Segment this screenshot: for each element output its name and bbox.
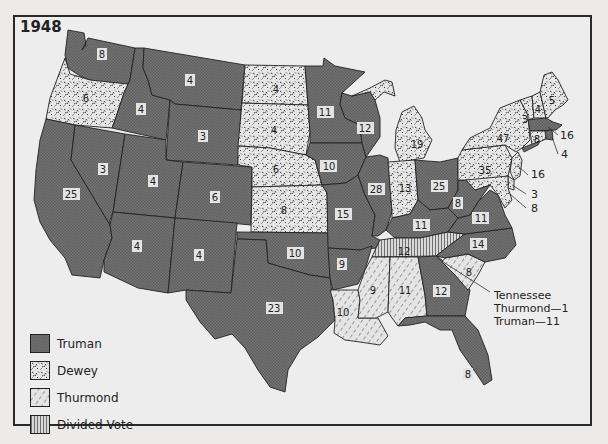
callout-de: 3 xyxy=(531,188,538,201)
svg-text:8: 8 xyxy=(99,49,105,60)
callout-ma: 16 xyxy=(560,129,574,142)
svg-text:14: 14 xyxy=(472,239,485,250)
thurmond-swatch-icon xyxy=(30,388,50,407)
callout-nj: 16 xyxy=(531,168,545,181)
svg-text:8: 8 xyxy=(455,198,461,209)
svg-text:8: 8 xyxy=(466,267,472,278)
svg-text:11: 11 xyxy=(475,213,488,224)
svg-text:4: 4 xyxy=(196,250,202,261)
svg-text:25: 25 xyxy=(65,189,78,200)
legend: Truman Dewey Thurmond Divided Vote xyxy=(30,330,133,438)
svg-text:35: 35 xyxy=(479,165,492,176)
svg-text:4: 4 xyxy=(535,104,541,115)
svg-text:6: 6 xyxy=(273,164,279,175)
svg-text:11: 11 xyxy=(399,285,412,296)
svg-text:9: 9 xyxy=(339,259,345,270)
legend-item-dewey: Dewey xyxy=(30,357,133,384)
svg-text:11: 11 xyxy=(319,107,332,118)
note-line-state: Tennessee xyxy=(494,289,568,302)
state-ma xyxy=(528,118,562,131)
callout-ri: 4 xyxy=(561,148,568,161)
svg-text:28: 28 xyxy=(370,184,383,195)
svg-text:19: 19 xyxy=(411,139,424,150)
svg-text:12: 12 xyxy=(359,123,372,134)
svg-text:5: 5 xyxy=(549,95,555,106)
svg-text:8: 8 xyxy=(281,205,287,216)
svg-text:10: 10 xyxy=(337,307,350,318)
svg-text:13: 13 xyxy=(399,183,412,194)
state-nj xyxy=(510,152,522,180)
state-fl xyxy=(398,316,492,385)
svg-text:4: 4 xyxy=(271,125,277,136)
svg-text:3: 3 xyxy=(522,114,528,125)
svg-text:4: 4 xyxy=(187,75,193,86)
svg-text:3: 3 xyxy=(100,164,106,175)
legend-item-divided: Divided Vote xyxy=(30,411,133,438)
state-ks xyxy=(251,185,328,233)
note-line-thurmond: Thurmond—1 xyxy=(494,302,568,315)
svg-text:10: 10 xyxy=(323,161,336,172)
state-ny xyxy=(462,100,530,152)
svg-text:10: 10 xyxy=(289,248,302,259)
svg-text:47: 47 xyxy=(497,133,510,144)
note-line-truman: Truman—11 xyxy=(494,315,568,328)
tennessee-note: Tennessee Thurmond—1 Truman—11 xyxy=(494,289,568,328)
svg-text:12: 12 xyxy=(435,286,448,297)
svg-text:12: 12 xyxy=(398,246,411,257)
svg-text:3: 3 xyxy=(200,131,206,142)
truman-swatch-icon xyxy=(30,334,50,353)
divided-swatch-icon xyxy=(30,415,50,434)
legend-item-thurmond: Thurmond xyxy=(30,384,133,411)
svg-text:25: 25 xyxy=(433,181,446,192)
svg-text:4: 4 xyxy=(273,84,279,95)
svg-text:6: 6 xyxy=(212,192,218,203)
svg-text:23: 23 xyxy=(268,303,281,314)
state-az xyxy=(104,212,175,293)
legend-item-truman: Truman xyxy=(30,330,133,357)
state-mi xyxy=(395,106,432,162)
svg-text:8: 8 xyxy=(465,369,471,380)
svg-text:4: 4 xyxy=(150,176,156,187)
svg-text:6: 6 xyxy=(83,93,89,104)
callout-md: 8 xyxy=(531,202,538,215)
svg-text:4: 4 xyxy=(138,104,144,115)
dewey-swatch-icon xyxy=(30,361,50,380)
svg-text:9: 9 xyxy=(370,285,376,296)
svg-text:15: 15 xyxy=(337,209,350,220)
svg-text:11: 11 xyxy=(415,220,428,231)
svg-text:8: 8 xyxy=(534,134,540,145)
svg-text:4: 4 xyxy=(134,241,140,252)
